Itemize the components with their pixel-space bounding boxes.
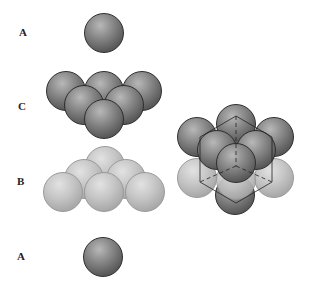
hexagon-outline [0, 0, 309, 284]
